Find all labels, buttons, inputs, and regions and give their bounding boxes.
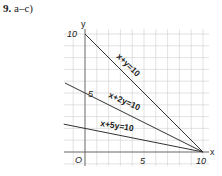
- grid: [64, 29, 209, 166]
- y-tick-10: 10: [67, 29, 77, 39]
- label-x-plus-y: x+y=10: [115, 51, 143, 78]
- label-x-plus-5y: x+5y=10: [100, 118, 135, 133]
- x-tick-10: 10: [196, 156, 206, 166]
- coordinate-graph: x y O 5 10 5 10 x+y=10 x+2y=10 x+5y=10: [0, 0, 222, 176]
- y-axis-label: y: [81, 19, 86, 29]
- line-x-2y-10: [65, 83, 203, 152]
- x-tick-origin: O: [75, 155, 82, 165]
- x-axis-label: x: [210, 147, 215, 157]
- x-tick-5: 5: [140, 156, 146, 166]
